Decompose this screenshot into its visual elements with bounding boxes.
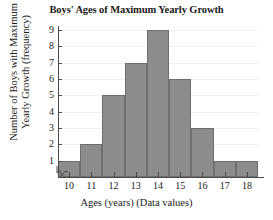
chart-title: Boys' Ages of Maximum Yearly Growth <box>0 4 273 15</box>
x-axis-tick-label: 15 <box>170 180 190 191</box>
histogram-bar <box>169 79 191 177</box>
histogram-figure: Boys' Ages of Maximum Yearly Growth 9876… <box>0 0 273 220</box>
y-axis-tick <box>58 112 62 113</box>
x-axis-tick-label: 13 <box>126 180 146 191</box>
y-axis-tick-label: 5 <box>38 90 54 100</box>
y-axis-tick-label: 3 <box>38 123 54 133</box>
x-axis-tick-label: 14 <box>148 180 168 191</box>
x-axis-tick <box>225 172 226 177</box>
y-axis-tick <box>58 63 62 64</box>
y-axis-tick <box>58 128 62 129</box>
y-axis-tick-label: 8 <box>38 41 54 51</box>
axis-break-icon <box>56 166 68 179</box>
y-axis-title-line-1: Number of Boys with Maximum <box>8 0 20 155</box>
x-axis-tick <box>158 172 159 177</box>
x-axis-tick-label: 17 <box>215 180 235 191</box>
y-axis-tick <box>58 144 62 145</box>
x-axis-tick <box>202 172 203 177</box>
histogram-bar <box>147 30 169 177</box>
x-axis-tick <box>247 172 248 177</box>
y-axis-line <box>58 26 59 177</box>
x-axis-tick-label: 11 <box>81 180 101 191</box>
y-axis-tick <box>58 95 62 96</box>
y-axis-tick-label: 1 <box>38 156 54 166</box>
y-axis-title-line-2: Yearly Growth (frequency) <box>20 0 32 155</box>
y-axis-tick-label: 9 <box>38 25 54 35</box>
histogram-bar <box>102 95 124 177</box>
x-axis-tick-label: 16 <box>192 180 212 191</box>
x-axis-tick-label: 10 <box>59 180 79 191</box>
x-axis-tick-label: 18 <box>237 180 257 191</box>
x-axis-tick <box>69 172 70 177</box>
x-axis-tick <box>136 172 137 177</box>
histogram-bar <box>125 63 147 177</box>
x-axis-tick <box>91 172 92 177</box>
x-axis-line <box>58 177 264 178</box>
y-axis-title: Number of Boys with Maximum Yearly Growt… <box>8 0 32 155</box>
y-axis-tick-label: 4 <box>38 107 54 117</box>
x-axis-title: Ages (years) (Data values) <box>0 197 273 208</box>
y-axis-tick <box>58 79 62 80</box>
y-axis-tick-label: 2 <box>38 139 54 149</box>
y-axis-tick <box>58 161 62 162</box>
y-axis-tick-label: 7 <box>38 58 54 68</box>
y-axis-tick <box>58 30 62 31</box>
histogram-bar <box>191 128 213 177</box>
x-axis-tick-label: 12 <box>104 180 124 191</box>
y-axis-tick-label: 6 <box>38 74 54 84</box>
x-axis-tick <box>114 172 115 177</box>
y-axis-tick <box>58 46 62 47</box>
plot-area <box>58 30 258 177</box>
bar-group <box>58 30 258 177</box>
x-axis-tick <box>180 172 181 177</box>
